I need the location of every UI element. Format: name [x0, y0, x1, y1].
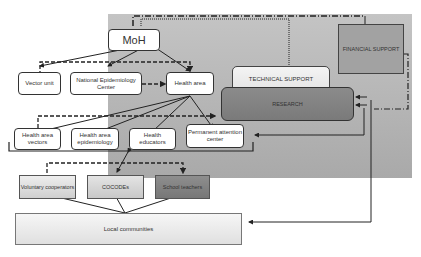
local-communities-node: Local communities	[15, 213, 242, 245]
permanent-attention-center-node: Permanent attention center	[186, 124, 244, 148]
vector-unit-node: Vector unit	[18, 72, 61, 95]
health-area-node: Health area	[166, 72, 214, 95]
national-epidemiology-center-node: National Epidemiology Center	[70, 72, 142, 95]
health-area-epidemiology-node: Health area epidemiology	[71, 128, 119, 150]
moh-node: MoH	[108, 29, 160, 51]
school-teachers-node: School teachers	[155, 175, 210, 199]
cocodes-node: COCODEs	[87, 175, 144, 199]
research-node: RESEARCH	[221, 87, 354, 121]
voluntary-cooperators-node: Voluntary cooperators	[19, 175, 76, 199]
health-educators-node: Health educators	[129, 128, 176, 150]
health-area-vectors-node: Health area vectors	[14, 128, 61, 150]
financial-support-node: FINANCIAL SUPPORT	[338, 24, 404, 74]
